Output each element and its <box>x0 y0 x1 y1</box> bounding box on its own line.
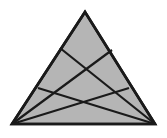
figure-container <box>0 0 167 138</box>
triangle-cevians-diagram <box>0 0 167 138</box>
